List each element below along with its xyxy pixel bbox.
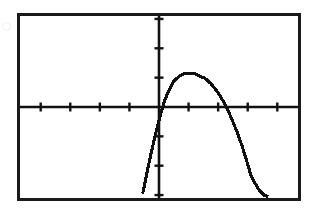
screenshot-root <box>0 0 315 219</box>
graph-trace-y1 <box>143 73 269 196</box>
scan-artifact <box>2 22 11 31</box>
calculator-screen-frame <box>17 13 301 201</box>
graph-plot-area[interactable] <box>20 16 298 198</box>
parabola-graph-svg <box>20 16 298 198</box>
